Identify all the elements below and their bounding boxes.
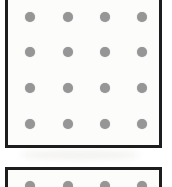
grid-dot: [63, 119, 73, 129]
grid-dot: [63, 12, 73, 22]
grid-dot: [25, 47, 35, 57]
grid-dot: [25, 119, 35, 129]
grid-dot: [137, 12, 147, 22]
grid-dot: [25, 181, 35, 187]
grid-dot: [25, 83, 35, 93]
grid-dot: [137, 47, 147, 57]
grid-dot: [137, 119, 147, 129]
grid-dot: [137, 83, 147, 93]
grid-dot: [63, 83, 73, 93]
grid-dot: [137, 181, 147, 187]
grid-dot: [100, 83, 110, 93]
grid-dot: [100, 119, 110, 129]
grid-dot: [25, 12, 35, 22]
grid-dot: [63, 181, 73, 187]
grid-dot: [100, 47, 110, 57]
figure-canvas: [0, 0, 172, 187]
grid-dot: [63, 47, 73, 57]
grid-dot: [100, 12, 110, 22]
grid-dot: [100, 181, 110, 187]
